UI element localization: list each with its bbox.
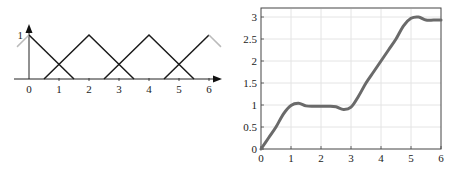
x-tick-label: 6 xyxy=(438,152,444,164)
x-tick-label: 4 xyxy=(378,152,384,164)
x-tick-label: 3 xyxy=(116,83,122,95)
y-tick-label: 1.5 xyxy=(243,77,257,89)
membership-function-line xyxy=(44,35,134,79)
figure: 01234561 012345600.511.522.53 xyxy=(0,0,460,171)
x-tick-label: 5 xyxy=(176,83,182,95)
x-tick-label: 3 xyxy=(348,152,354,164)
x-tick-label: 5 xyxy=(408,152,414,164)
x-tick-label: 0 xyxy=(258,152,264,164)
x-tick-label: 1 xyxy=(56,83,62,95)
x-tick-label: 2 xyxy=(318,152,324,164)
y-tick-label: 3 xyxy=(252,11,258,23)
x-tick-label: 2 xyxy=(86,83,92,95)
y-tick-label: 1 xyxy=(18,29,24,41)
y-tick-label: 1 xyxy=(252,99,258,111)
y-tick-label: 0.5 xyxy=(243,121,257,133)
y-axis-arrow-icon xyxy=(26,24,33,33)
x-tick-label: 4 xyxy=(146,83,152,95)
x-tick-label: 0 xyxy=(26,83,32,95)
membership-function-line xyxy=(104,35,194,79)
x-axis-arrow-icon xyxy=(213,76,222,83)
output-line-chart: 012345600.511.522.53 xyxy=(243,8,444,164)
membership-functions-chart: 01234561 xyxy=(14,24,222,95)
y-tick-label: 0 xyxy=(252,143,258,155)
x-tick-label: 1 xyxy=(288,152,294,164)
y-tick-label: 2 xyxy=(252,55,258,67)
x-tick-label: 6 xyxy=(206,83,212,95)
y-tick-label: 2.5 xyxy=(243,33,257,45)
